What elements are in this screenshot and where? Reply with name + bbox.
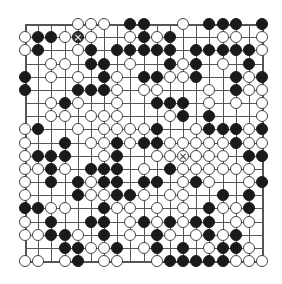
white-stone[interactable] <box>19 189 31 201</box>
white-stone[interactable] <box>72 18 84 30</box>
empty-intersection[interactable] <box>45 84 57 96</box>
empty-intersection[interactable] <box>124 97 136 109</box>
empty-intersection[interactable] <box>32 176 44 188</box>
white-stone[interactable] <box>19 44 31 56</box>
black-stone[interactable] <box>203 123 215 135</box>
white-stone[interactable] <box>203 84 215 96</box>
empty-intersection[interactable] <box>138 229 150 241</box>
white-stone[interactable] <box>190 150 202 162</box>
empty-intersection[interactable] <box>124 242 136 254</box>
white-stone[interactable] <box>151 31 163 43</box>
white-stone[interactable] <box>138 84 150 96</box>
marked-black-stone[interactable] <box>72 31 84 43</box>
empty-intersection[interactable] <box>45 242 57 254</box>
white-stone[interactable] <box>203 150 215 162</box>
black-stone[interactable] <box>164 44 176 56</box>
black-stone[interactable] <box>203 216 215 228</box>
black-stone[interactable] <box>230 137 242 149</box>
empty-intersection[interactable] <box>98 44 110 56</box>
white-stone[interactable] <box>177 189 189 201</box>
black-stone[interactable] <box>98 176 110 188</box>
black-stone[interactable] <box>124 18 136 30</box>
black-stone[interactable] <box>230 71 242 83</box>
empty-intersection[interactable] <box>243 31 255 43</box>
white-stone[interactable] <box>19 255 31 267</box>
empty-intersection[interactable] <box>217 110 229 122</box>
empty-intersection[interactable] <box>85 123 97 135</box>
empty-intersection[interactable] <box>124 150 136 162</box>
empty-intersection[interactable] <box>111 229 123 241</box>
black-stone[interactable] <box>203 202 215 214</box>
empty-intersection[interactable] <box>190 242 202 254</box>
white-stone[interactable] <box>190 123 202 135</box>
white-stone[interactable] <box>111 123 123 135</box>
empty-intersection[interactable] <box>111 216 123 228</box>
white-stone[interactable] <box>124 202 136 214</box>
empty-intersection[interactable] <box>230 110 242 122</box>
empty-intersection[interactable] <box>32 110 44 122</box>
white-stone[interactable] <box>59 58 71 70</box>
white-stone[interactable] <box>19 123 31 135</box>
white-stone[interactable] <box>243 216 255 228</box>
empty-intersection[interactable] <box>124 255 136 267</box>
white-stone[interactable] <box>151 216 163 228</box>
white-stone[interactable] <box>177 216 189 228</box>
white-stone[interactable] <box>32 255 44 267</box>
empty-intersection[interactable] <box>32 216 44 228</box>
white-stone[interactable] <box>243 137 255 149</box>
empty-intersection[interactable] <box>72 137 84 149</box>
black-stone[interactable] <box>190 255 202 267</box>
empty-intersection[interactable] <box>177 123 189 135</box>
white-stone[interactable] <box>230 97 242 109</box>
black-stone[interactable] <box>111 189 123 201</box>
white-stone[interactable] <box>164 229 176 241</box>
black-stone[interactable] <box>85 216 97 228</box>
black-stone[interactable] <box>164 58 176 70</box>
empty-intersection[interactable] <box>59 189 71 201</box>
black-stone[interactable] <box>217 255 229 267</box>
white-stone[interactable] <box>85 18 97 30</box>
black-stone[interactable] <box>111 176 123 188</box>
black-stone[interactable] <box>138 137 150 149</box>
white-stone[interactable] <box>72 71 84 83</box>
empty-intersection[interactable] <box>85 229 97 241</box>
empty-intersection[interactable] <box>111 58 123 70</box>
white-stone[interactable] <box>190 163 202 175</box>
black-stone[interactable] <box>151 176 163 188</box>
black-stone[interactable] <box>111 242 123 254</box>
empty-intersection[interactable] <box>72 202 84 214</box>
white-stone[interactable] <box>164 150 176 162</box>
black-stone[interactable] <box>32 202 44 214</box>
empty-intersection[interactable] <box>32 189 44 201</box>
black-stone[interactable] <box>138 176 150 188</box>
black-stone[interactable] <box>45 150 57 162</box>
white-stone[interactable] <box>164 71 176 83</box>
empty-intersection[interactable] <box>190 18 202 30</box>
black-stone[interactable] <box>256 18 268 30</box>
empty-intersection[interactable] <box>19 58 31 70</box>
black-stone[interactable] <box>19 84 31 96</box>
empty-intersection[interactable] <box>138 58 150 70</box>
empty-intersection[interactable] <box>256 202 268 214</box>
black-stone[interactable] <box>85 84 97 96</box>
black-stone[interactable] <box>59 242 71 254</box>
white-stone[interactable] <box>256 97 268 109</box>
white-stone[interactable] <box>85 31 97 43</box>
white-stone[interactable] <box>151 202 163 214</box>
empty-intersection[interactable] <box>72 110 84 122</box>
empty-intersection[interactable] <box>124 176 136 188</box>
black-stone[interactable] <box>230 229 242 241</box>
empty-intersection[interactable] <box>190 31 202 43</box>
white-stone[interactable] <box>124 229 136 241</box>
black-stone[interactable] <box>151 71 163 83</box>
empty-intersection[interactable] <box>32 18 44 30</box>
white-stone[interactable] <box>98 110 110 122</box>
empty-intersection[interactable] <box>85 255 97 267</box>
black-stone[interactable] <box>256 150 268 162</box>
black-stone[interactable] <box>59 229 71 241</box>
white-stone[interactable] <box>256 31 268 43</box>
black-stone[interactable] <box>98 58 110 70</box>
white-stone[interactable] <box>243 71 255 83</box>
white-stone[interactable] <box>45 110 57 122</box>
white-stone[interactable] <box>85 189 97 201</box>
